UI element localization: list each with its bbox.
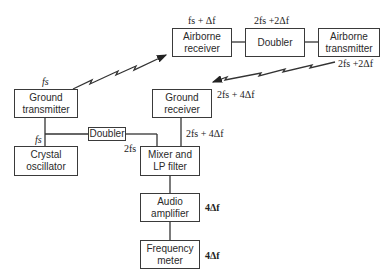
ground-receiver-label: Ground receiver — [153, 92, 211, 116]
ground-transmitter-block: Ground transmitter — [14, 89, 78, 118]
ground-receiver-input-freq: 2fs + 4Δf — [217, 89, 255, 100]
doubler-ground-output-freq: 2fs — [124, 143, 136, 154]
airborne-doubler-label: Doubler — [257, 37, 292, 49]
airborne-transmitter-block: Airborne transmitter — [318, 28, 380, 57]
ground-receiver-block: Ground receiver — [152, 89, 212, 118]
mixer-lp-filter-label: Mixer and LP filter — [141, 149, 199, 173]
frequency-meter-label: Frequency meter — [141, 243, 199, 267]
airborne-transmitter-freq: 2fs +2Δf — [338, 58, 373, 69]
mixer-lp-filter-block: Mixer and LP filter — [140, 146, 200, 176]
audio-amplifier-freq: 4Δf — [205, 202, 220, 213]
airborne-receiver-freq: fs + Δf — [188, 15, 216, 26]
crystal-oscillator-block: Crystal oscillator — [14, 146, 78, 176]
ground-receiver-output-freq: 2fs + 4Δf — [186, 128, 224, 139]
ground-doubler-label: Doubler — [89, 128, 124, 140]
oscillator-freq: fs — [35, 134, 42, 145]
ground-transmitter-label: Ground transmitter — [15, 92, 77, 116]
doubler-output-freq: 2fs +2Δf — [254, 15, 289, 26]
audio-amplifier-label: Audio amplifier — [141, 196, 199, 220]
ground-transmitter-freq: fs — [42, 76, 49, 87]
airborne-transmitter-label: Airborne transmitter — [319, 31, 379, 55]
frequency-meter-block: Frequency meter — [140, 240, 200, 269]
airborne-doubler-block: Doubler — [245, 28, 305, 57]
frequency-meter-freq: 4Δf — [205, 250, 220, 261]
airborne-receiver-label: Airborne receiver — [173, 31, 231, 55]
ground-doubler-block: Doubler — [88, 127, 126, 141]
audio-amplifier-block: Audio amplifier — [140, 193, 200, 222]
crystal-oscillator-label: Crystal oscillator — [15, 149, 77, 173]
airborne-receiver-block: Airborne receiver — [172, 28, 232, 57]
